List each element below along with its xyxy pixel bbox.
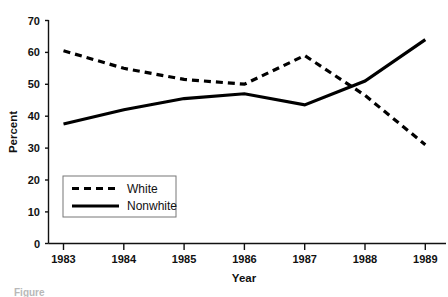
x-tick-label-1986: 1986 [232, 253, 256, 265]
x-tick-label-1988: 1988 [353, 253, 377, 265]
y-tick-label-60: 60 [28, 46, 40, 58]
y-tick-label-30: 30 [28, 142, 40, 154]
y-tick-label-20: 20 [28, 174, 40, 186]
figure-container: 70 60 50 40 30 20 10 0 Percent 1983 1984… [0, 0, 448, 297]
series-line-nonwhite [64, 40, 426, 124]
x-tick-label-1984: 1984 [112, 253, 137, 265]
x-tick-label-1983: 1983 [51, 253, 75, 265]
legend: White Nonwhite [63, 176, 177, 217]
legend-label-nonwhite: Nonwhite [127, 199, 177, 213]
line-chart: 70 60 50 40 30 20 10 0 Percent 1983 1984… [0, 0, 448, 297]
y-tick-label-0: 0 [34, 238, 40, 250]
y-tick-label-10: 10 [28, 206, 40, 218]
y-axis-title: Percent [7, 111, 19, 153]
series-line-white [64, 51, 426, 145]
x-tick-marks [64, 244, 426, 251]
y-tick-labels: 70 60 50 40 30 20 10 0 [28, 15, 40, 250]
y-tick-label-40: 40 [28, 110, 40, 122]
x-tick-label-1985: 1985 [172, 253, 196, 265]
x-tick-label-1989: 1989 [413, 253, 437, 265]
y-tick-label-50: 50 [28, 78, 40, 90]
y-tick-label-70: 70 [28, 15, 40, 27]
x-tick-label-1987: 1987 [292, 253, 316, 265]
x-tick-labels: 1983 1984 1985 1986 1987 1988 1989 [51, 253, 437, 265]
figure-caption: Figure [14, 287, 45, 297]
x-axis-title: Year [232, 272, 257, 284]
legend-label-white: White [127, 182, 158, 196]
